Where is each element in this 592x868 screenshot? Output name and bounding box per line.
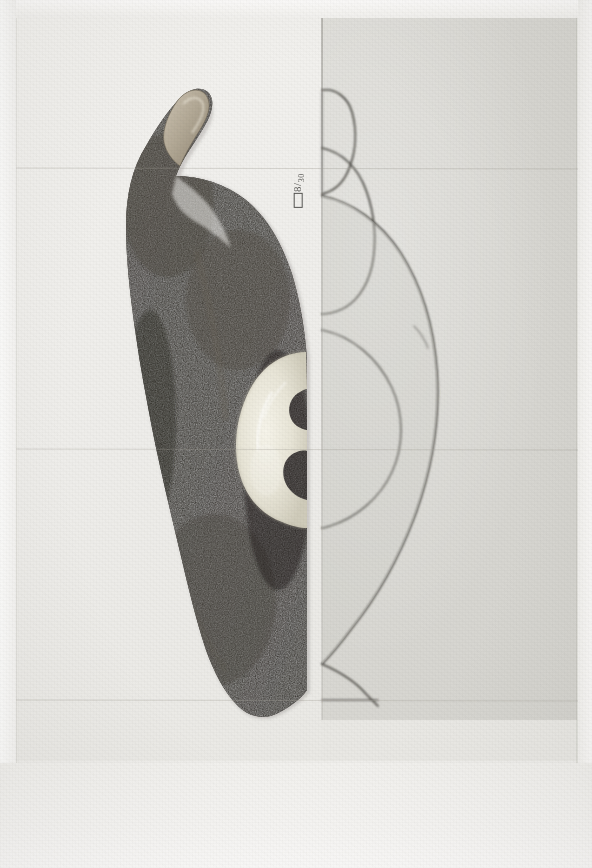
scanned-plate-page: 8/30 Plate 1 bbox=[0, 0, 592, 868]
paper-grain-overlay bbox=[0, 0, 592, 868]
